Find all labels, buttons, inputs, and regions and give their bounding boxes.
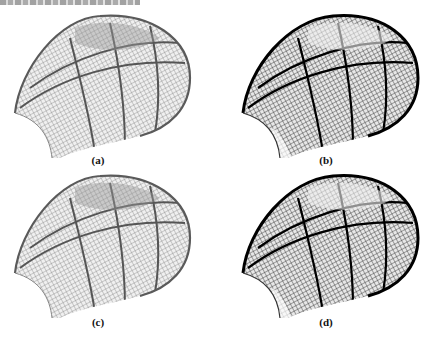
dome-grid-shell-c <box>0 168 213 318</box>
panel-label-a: (a) <box>92 154 105 166</box>
dome-grid-shell-d <box>213 168 426 318</box>
dome-grid-shell-b <box>213 8 426 158</box>
cropped-caption-text <box>0 0 140 5</box>
figure-panel-c: (c) <box>0 168 213 328</box>
panel-label-b: (b) <box>319 154 332 166</box>
dome-grid-shell-a <box>0 8 213 158</box>
panel-label-c: (c) <box>92 316 104 328</box>
figure-panel-d: (d) <box>213 168 426 328</box>
figure-panel-a: (a) <box>0 8 213 168</box>
figure-panel-b: (b) <box>213 8 426 168</box>
panel-label-d: (d) <box>319 316 332 328</box>
